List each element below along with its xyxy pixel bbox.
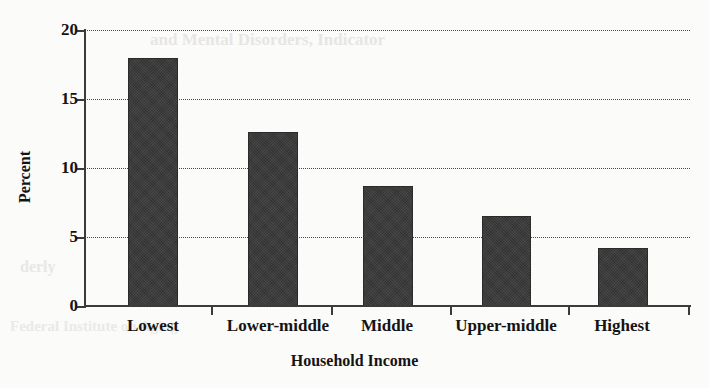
chart-screenshot: and Mental Disorders, Indicator derly Fe… [0, 0, 709, 388]
xtick-mark-5 [688, 306, 690, 315]
xtick-mark-4 [568, 306, 570, 315]
xcat-label-highest: Highest [562, 316, 682, 336]
y-axis-line [84, 29, 86, 307]
bar-lowest [128, 58, 178, 306]
x-axis-line [84, 305, 691, 307]
ytick-label-20: 20 [38, 21, 78, 38]
ytick-label-0: 0 [38, 297, 78, 314]
gridline-20 [85, 30, 690, 31]
xtick-mark-2 [331, 306, 333, 315]
bar-upper-middle [482, 216, 531, 306]
xcat-label-lowest: Lowest [93, 316, 213, 336]
ytick-label-10: 10 [38, 159, 78, 176]
xtick-mark-1 [211, 306, 213, 315]
bar-chart: 20 15 10 5 0 Lowest Lower-middle Middle … [0, 0, 709, 388]
ytick-label-5: 5 [38, 228, 78, 245]
plot-area [85, 30, 690, 306]
y-axis-title: Percent [16, 122, 34, 232]
bar-highest [598, 248, 648, 306]
xtick-mark-3 [450, 306, 452, 315]
bar-lower-middle [248, 132, 298, 306]
x-axis-title: Household Income [0, 352, 709, 370]
ytick-label-15: 15 [38, 90, 78, 107]
bar-middle [363, 186, 413, 306]
